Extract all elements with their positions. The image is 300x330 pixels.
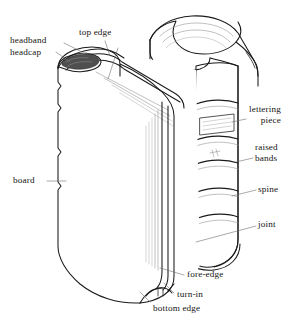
label-spine-text: spine <box>258 184 278 194</box>
label-bottom-edge-text: bottom edge <box>153 303 200 313</box>
label-headband: headband <box>10 35 46 46</box>
book-anatomy-diagram: .ink { fill:none; stroke:#1a1a1a; stroke… <box>0 0 300 330</box>
label-raised-bands: raised bands <box>255 142 278 163</box>
label-fore-edge-text: fore-edge <box>187 269 224 279</box>
label-turn-in-text: turn-in <box>177 289 203 299</box>
label-raised-bands-line2: bands <box>255 153 278 164</box>
label-board-text: board <box>13 175 35 185</box>
label-lettering-piece-line1: lettering <box>249 104 281 115</box>
label-joint: joint <box>258 219 276 230</box>
label-lettering-piece: lettering piece <box>249 104 281 125</box>
front-cover-book <box>58 45 200 303</box>
label-lettering-piece-line2: piece <box>249 115 281 126</box>
label-bottom-edge: bottom edge <box>153 303 200 314</box>
label-headcap: headcap <box>10 47 41 58</box>
label-spine: spine <box>258 184 278 195</box>
label-top-edge: top edge <box>79 27 112 38</box>
label-headband-text: headband <box>10 35 46 45</box>
label-headcap-text: headcap <box>10 47 41 57</box>
label-board: board <box>13 175 35 186</box>
label-turn-in: turn-in <box>177 289 203 300</box>
label-raised-bands-line1: raised <box>255 142 278 153</box>
label-fore-edge: fore-edge <box>187 269 224 280</box>
label-top-edge-text: top edge <box>79 27 112 37</box>
book-line-drawing: .ink { fill:none; stroke:#1a1a1a; stroke… <box>0 0 300 330</box>
label-joint-text: joint <box>258 219 276 229</box>
